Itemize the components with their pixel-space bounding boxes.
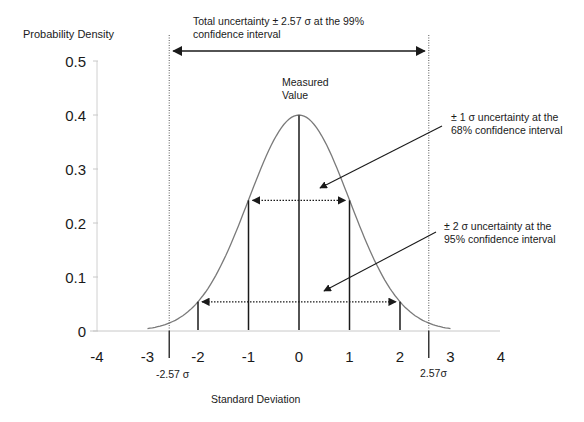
x-tick-label: -3 bbox=[141, 348, 154, 365]
x-tick-label: 2 bbox=[396, 348, 404, 365]
two-sigma-label-2: 95% confidence interval bbox=[444, 233, 556, 245]
one-sigma-pointer bbox=[320, 126, 442, 188]
y-tick-label: 0.5 bbox=[65, 53, 86, 70]
x-tick-label: 3 bbox=[446, 348, 454, 365]
two-sigma-label-1: ± 2 σ uncertainty at the bbox=[444, 220, 552, 232]
total-uncertainty-label-1: Total uncertainty ± 2.57 σ at the 99% bbox=[193, 15, 364, 27]
y-tick-label: 0.2 bbox=[65, 215, 86, 232]
y-tick-label: 0.3 bbox=[65, 161, 86, 178]
y-axis-label: Probability Density bbox=[23, 28, 115, 40]
measured-value-label-1: Measured bbox=[282, 76, 329, 88]
measured-value-label-2: Value bbox=[282, 89, 308, 101]
x-tick-label: 0 bbox=[295, 348, 303, 365]
one-sigma-label-1: ± 1 σ uncertainty at the bbox=[451, 111, 559, 123]
y-tick-label: 0 bbox=[78, 323, 86, 340]
x-tick-label: 1 bbox=[345, 348, 353, 365]
x-tick-label: 4 bbox=[497, 348, 505, 365]
x-ticks: -4-3-2-101234 bbox=[90, 348, 505, 365]
y-tick-label: 0.4 bbox=[65, 107, 86, 124]
neg-limit-label: -2.57 σ bbox=[156, 368, 190, 380]
y-tick-label: 0.1 bbox=[65, 269, 86, 286]
total-uncertainty-label-2: confidence interval bbox=[193, 28, 281, 40]
x-axis-label: Standard Deviation bbox=[211, 393, 300, 405]
pos-limit-label: 2.57σ bbox=[420, 367, 447, 379]
y-ticks: 00.10.20.30.40.5 bbox=[65, 53, 98, 340]
x-tick-label: -2 bbox=[191, 348, 204, 365]
x-tick-label: -1 bbox=[242, 348, 255, 365]
one-sigma-label-2: 68% confidence interval bbox=[451, 124, 563, 136]
two-sigma-pointer bbox=[324, 232, 436, 291]
normal-distribution-diagram: 00.10.20.30.40.5 -4-3-2-101234 Probabili… bbox=[0, 0, 584, 422]
x-tick-label: -4 bbox=[90, 348, 103, 365]
